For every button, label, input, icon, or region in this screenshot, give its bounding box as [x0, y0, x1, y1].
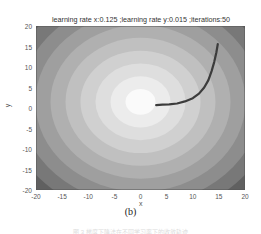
figure-caption: 图 3 梯度下降法在不同学习率下的收敛轨迹 [0, 227, 261, 234]
x-tick-label: -15 [57, 193, 66, 200]
contour-plot [36, 26, 245, 190]
x-tick-label: -5 [111, 193, 117, 200]
chart-title: learning rate x:0.125 ;learning rate y:0… [36, 15, 246, 24]
y-tick-label: 0 [28, 105, 32, 112]
y-tick-label: -15 [23, 166, 32, 173]
y-tick-label: 15 [25, 43, 32, 50]
x-tick-label: 0 [139, 193, 143, 200]
x-tick-label: 10 [189, 193, 196, 200]
y-tick-label: 5 [28, 84, 32, 91]
x-tick-label: 15 [215, 193, 222, 200]
x-tick-label: -20 [31, 193, 40, 200]
subfigure-label: (b) [0, 206, 261, 217]
y-tick-label: 10 [25, 64, 32, 71]
x-tick-label: 5 [165, 193, 169, 200]
x-tick-label: -10 [84, 193, 93, 200]
y-tick-label: -10 [23, 146, 32, 153]
contour-band [126, 89, 156, 115]
y-tick-label: 20 [25, 23, 32, 30]
contour-bands [36, 26, 245, 190]
x-tick-label: 20 [241, 193, 248, 200]
y-axis-label: y [4, 104, 11, 108]
y-tick-label: -5 [26, 125, 32, 132]
